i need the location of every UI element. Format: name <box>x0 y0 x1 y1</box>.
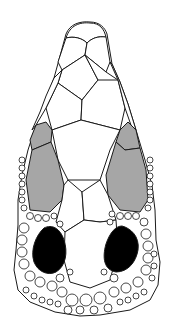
head-scale-diagram <box>0 0 171 318</box>
